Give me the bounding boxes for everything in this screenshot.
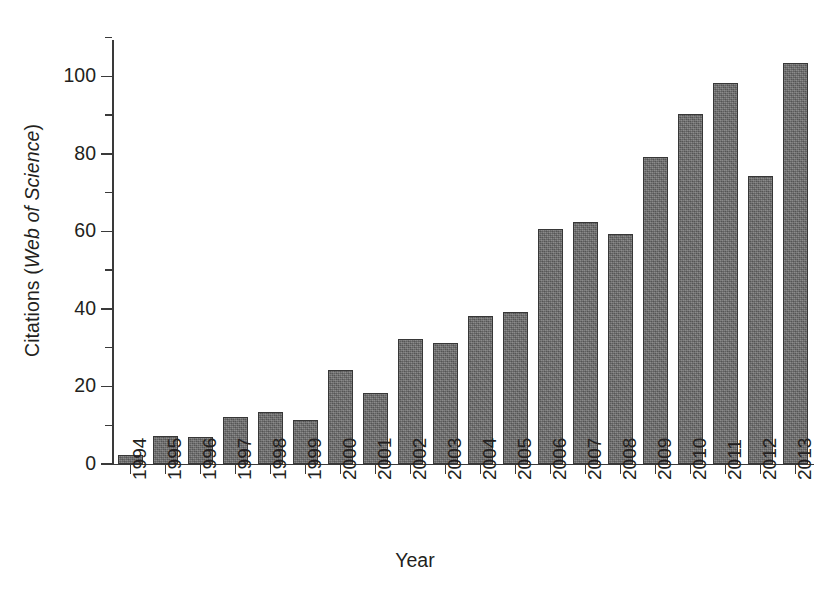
- y-tick-minor: [105, 347, 112, 348]
- y-tick-label: 40: [36, 299, 96, 319]
- bar: [643, 157, 669, 464]
- y-tick-major: [101, 308, 112, 310]
- y-tick-major: [101, 231, 112, 233]
- y-tick-minor: [105, 425, 112, 426]
- y-tick-minor: [105, 192, 112, 193]
- bar: [678, 114, 704, 464]
- bar: [713, 83, 739, 464]
- x-axis-title: Year: [0, 549, 830, 572]
- y-tick-major: [101, 153, 112, 155]
- bar: [538, 229, 564, 464]
- bar: [748, 176, 774, 464]
- y-tick-label: 0: [36, 454, 96, 474]
- citations-bar-chart: Citations (Web of Science) 020406080100 …: [0, 0, 830, 595]
- y-tick-label: 80: [36, 144, 96, 164]
- y-tick-label: 100: [36, 66, 96, 86]
- y-tick-minor: [105, 114, 112, 115]
- y-tick-major: [101, 386, 112, 388]
- plot-area: [113, 40, 813, 464]
- bar: [608, 234, 634, 464]
- y-axis-title-close: ): [22, 123, 44, 130]
- y-tick-major: [101, 76, 112, 78]
- y-tick-minor: [105, 269, 112, 270]
- y-tick-label: 20: [36, 376, 96, 396]
- y-tick-major: [101, 463, 112, 465]
- bar: [783, 63, 809, 464]
- y-tick-minor: [105, 37, 112, 38]
- bar: [573, 222, 599, 464]
- y-tick-label: 60: [36, 221, 96, 241]
